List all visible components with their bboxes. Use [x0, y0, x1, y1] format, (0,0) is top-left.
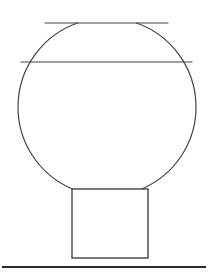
square-base	[72, 189, 148, 258]
figure-canvas	[0, 0, 208, 273]
line-drawing-svg	[0, 0, 208, 273]
